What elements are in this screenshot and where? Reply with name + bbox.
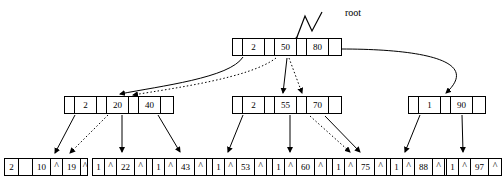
key-cell: 53: [237, 159, 255, 175]
key-cell: 2: [75, 97, 97, 113]
caret-glyph: ^: [195, 161, 206, 171]
caret-marker: ^: [225, 159, 237, 175]
key-cell: 2: [243, 39, 265, 55]
root-node: 25080: [232, 38, 342, 56]
edge-root-to-right-internal: [341, 49, 456, 93]
key-cell: 1: [333, 159, 345, 175]
caret-marker: ^: [315, 159, 327, 175]
caret-glyph: ^: [345, 161, 356, 171]
caret-glyph: ^: [433, 161, 444, 171]
caret-marker: ^: [285, 159, 297, 175]
pointer-cell: [265, 39, 275, 55]
pointer-cell: [265, 97, 275, 113]
key-cell: 80: [307, 39, 329, 55]
leaf-node-4: 1^53^: [212, 158, 274, 176]
caret-marker: ^: [51, 159, 63, 175]
caret-glyph: ^: [459, 161, 470, 171]
pointer-cell: [161, 97, 175, 113]
pointer-cell: [297, 39, 307, 55]
pointer-cell: [19, 159, 33, 175]
caret-glyph: ^: [315, 161, 326, 171]
key-cell: 75: [357, 159, 375, 175]
key-cell: 20: [107, 97, 129, 113]
key-cell: 40: [139, 97, 161, 113]
caret-marker: ^: [375, 159, 387, 175]
key-cell: 97: [471, 159, 489, 175]
internal-node-middle: 25570: [232, 96, 342, 114]
leaf-node-2: 1^22^: [92, 158, 154, 176]
b-plus-tree-diagram: root 250802204025570190210^19^1^22^1^43^…: [0, 0, 504, 189]
caret-marker: ^: [105, 159, 117, 175]
internal-node-left: 22040: [64, 96, 174, 114]
caret-glyph: ^: [51, 161, 62, 171]
pointer-cell: [409, 97, 419, 113]
pointer-cell: [233, 97, 243, 113]
edge-root-to-left-internal-dotted: [133, 58, 276, 95]
caret-marker: ^: [135, 159, 147, 175]
caret-marker: ^: [459, 159, 471, 175]
pointer-cell: [329, 39, 343, 55]
edge-right-internal-to-leaf-7: [405, 115, 420, 152]
leaf-node-1: 210^19^: [4, 158, 88, 176]
pointer-cell: [329, 97, 343, 113]
key-cell: 22: [117, 159, 135, 175]
pointer-cell: [233, 39, 243, 55]
key-cell: 1: [391, 159, 403, 175]
edge-left-internal-to-leaf-2: [70, 115, 108, 153]
caret-marker: ^: [403, 159, 415, 175]
edge-root-to-middle-internal: [283, 58, 287, 93]
leaf-node-8: 1^97^: [446, 158, 502, 176]
caret-marker: ^: [81, 159, 89, 175]
key-cell: 70: [307, 97, 329, 113]
leaf-node-5: 1^60^: [272, 158, 334, 176]
edge-root-to-left-internal: [120, 57, 243, 94]
pointer-cell: [473, 97, 487, 113]
caret-glyph: ^: [81, 161, 89, 171]
pointer-cell: [129, 97, 139, 113]
pointer-cell: [65, 97, 75, 113]
internal-node-right: 190: [408, 96, 486, 114]
caret-glyph: ^: [165, 161, 176, 171]
key-cell: 1: [153, 159, 165, 175]
key-cell: 88: [415, 159, 433, 175]
edge-right-internal-to-leaf-8: [462, 115, 463, 152]
pointer-cell: [97, 97, 107, 113]
root-pointer-line: [297, 12, 322, 37]
key-cell: 19: [63, 159, 81, 175]
key-cell: 2: [5, 159, 19, 175]
key-cell: 50: [275, 39, 297, 55]
key-cell: 2: [243, 97, 265, 113]
root-label: root: [345, 7, 361, 18]
leaf-node-7: 1^88^: [390, 158, 452, 176]
key-cell: 10: [33, 159, 51, 175]
key-cell: 1: [273, 159, 285, 175]
key-cell: 43: [177, 159, 195, 175]
caret-marker: ^: [489, 159, 501, 175]
key-cell: 1: [93, 159, 105, 175]
pointer-cell: [441, 97, 451, 113]
edge-middle-internal-to-leaf-4: [228, 115, 243, 152]
caret-marker: ^: [345, 159, 357, 175]
caret-marker: ^: [255, 159, 267, 175]
caret-glyph: ^: [403, 161, 414, 171]
caret-glyph: ^: [135, 161, 146, 171]
caret-glyph: ^: [375, 161, 386, 171]
key-cell: 1: [419, 97, 441, 113]
edge-left-internal-to-leaf-4: [158, 115, 180, 152]
leaf-node-6: 1^75^: [332, 158, 394, 176]
caret-glyph: ^: [225, 161, 236, 171]
edge-left-internal-to-leaf-1: [55, 115, 75, 153]
pointer-cell: [297, 97, 307, 113]
key-cell: 55: [275, 97, 297, 113]
key-cell: 60: [297, 159, 315, 175]
caret-glyph: ^: [285, 161, 296, 171]
caret-marker: ^: [433, 159, 445, 175]
caret-marker: ^: [195, 159, 207, 175]
key-cell: 90: [451, 97, 473, 113]
leaf-node-3: 1^43^: [152, 158, 214, 176]
caret-marker: ^: [165, 159, 177, 175]
caret-glyph: ^: [255, 161, 266, 171]
edge-root-to-middle-internal-dotted: [289, 58, 302, 93]
caret-glyph: ^: [105, 161, 116, 171]
key-cell: 1: [447, 159, 459, 175]
